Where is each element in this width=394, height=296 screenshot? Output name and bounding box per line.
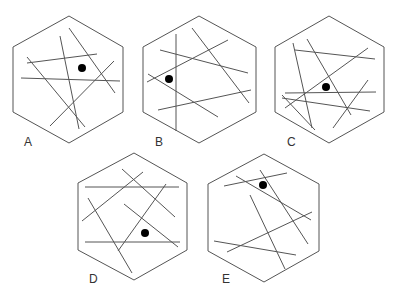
hexagon-outline bbox=[78, 153, 187, 280]
line-segment bbox=[60, 36, 79, 129]
figure-label-a: A bbox=[24, 136, 32, 148]
hexagon-figure-b bbox=[143, 16, 256, 143]
figure-label-c: C bbox=[287, 136, 296, 148]
figure-label-e: E bbox=[222, 273, 230, 285]
line-segment bbox=[236, 176, 311, 220]
line-segment bbox=[160, 50, 248, 73]
line-segment bbox=[214, 241, 296, 255]
dot-icon bbox=[141, 229, 149, 237]
line-segment bbox=[250, 195, 285, 269]
hexagon-figures bbox=[0, 0, 394, 296]
figure-label-d: D bbox=[89, 273, 98, 285]
line-segment bbox=[27, 54, 97, 63]
dot-icon bbox=[165, 75, 173, 83]
hexagon-outline bbox=[275, 16, 384, 143]
line-segment bbox=[88, 198, 132, 273]
dot-icon bbox=[259, 181, 267, 189]
hexagon-figure-c bbox=[275, 16, 384, 143]
line-segment bbox=[224, 173, 287, 186]
line-segment bbox=[124, 204, 178, 247]
figure-label-b: B bbox=[155, 136, 163, 148]
line-segment bbox=[118, 184, 166, 251]
dot-icon bbox=[322, 83, 330, 91]
line-segment bbox=[285, 92, 376, 93]
line-segment bbox=[307, 39, 351, 115]
hexagon-figure-d bbox=[78, 153, 187, 280]
line-segment bbox=[293, 43, 312, 128]
line-segment bbox=[285, 48, 368, 108]
puzzle-canvas: A B C D E bbox=[0, 0, 394, 296]
hexagon-figure-a bbox=[13, 16, 123, 143]
dot-icon bbox=[78, 64, 86, 72]
hexagon-outline bbox=[143, 16, 256, 143]
line-segment bbox=[158, 90, 251, 110]
line-segment bbox=[333, 80, 368, 128]
hexagon-outline bbox=[208, 154, 319, 282]
line-segment bbox=[148, 74, 218, 117]
hexagon-figure-e bbox=[208, 154, 319, 282]
line-segment bbox=[147, 40, 228, 82]
line-segment bbox=[122, 169, 175, 217]
line-segment bbox=[227, 212, 312, 252]
